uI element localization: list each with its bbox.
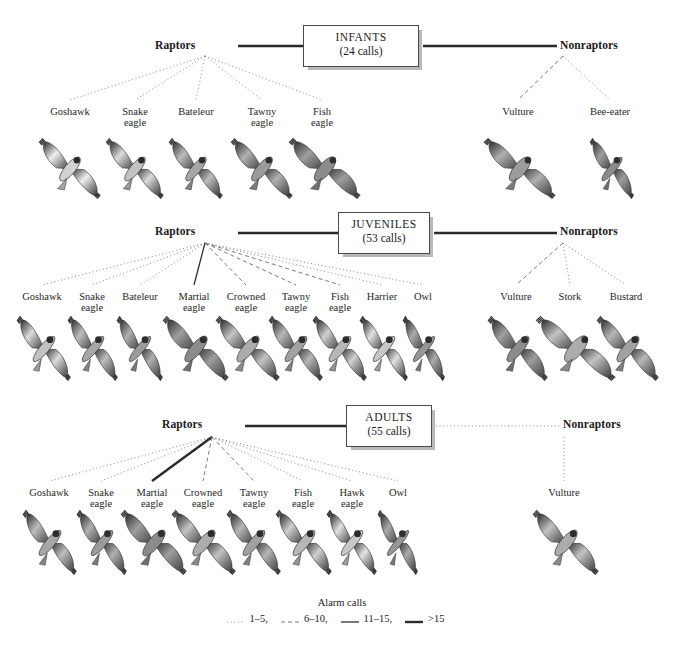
node-label-raptors-adults: Raptors xyxy=(162,418,202,430)
bird-juveniles-martial-eagle xyxy=(163,316,228,380)
stage-box-title: ADULTS xyxy=(347,411,431,425)
branch-adults-snake-eagle xyxy=(101,437,212,481)
bird-adults-vulture xyxy=(533,510,598,574)
legend-label: 1–5, xyxy=(250,613,268,624)
node-label-nonraptors-adults: Nonraptors xyxy=(563,418,621,430)
bird-infants-vulture xyxy=(484,138,555,198)
legend-item-15: 1–5, xyxy=(227,613,268,624)
bird-infants-bee-eater xyxy=(590,138,634,198)
bird-juveniles-bateleur xyxy=(117,316,163,380)
leaf-label-owl: Owl xyxy=(358,487,438,498)
leaf-label-owl: Owl xyxy=(383,291,463,302)
branch-juveniles-crowned-eagle xyxy=(205,243,246,285)
branch-juveniles-goshawk xyxy=(42,243,205,285)
branch-infants-goshawk xyxy=(70,56,205,100)
bird-juveniles-vulture xyxy=(488,316,547,380)
branch-adults-martial-eagle xyxy=(152,437,212,481)
stage-box-infants: INFANTS(24 calls) xyxy=(303,25,419,67)
legend-item-1115: 11–15, xyxy=(341,613,393,624)
node-label-nonraptors-infants: Nonraptors xyxy=(560,39,618,51)
legend-swatch-solid-thick xyxy=(405,616,423,622)
legend-swatch-dashed xyxy=(281,616,299,622)
legend-items: 1–5,6–10,11–15,>15 xyxy=(0,613,684,624)
stage-box-subtitle: (53 calls) xyxy=(339,232,429,246)
leaf-label-bustard: Bustard xyxy=(586,291,666,302)
bird-infants-bateleur xyxy=(169,138,222,198)
stage-box-title: JUVENILES xyxy=(339,218,429,232)
legend-item-15: >15 xyxy=(405,613,444,624)
legend-title: Alarm calls xyxy=(0,597,684,608)
node-label-nonraptors-juveniles: Nonraptors xyxy=(560,225,618,237)
bird-infants-goshawk xyxy=(39,138,100,198)
stage-box-juveniles: JUVENILES(53 calls) xyxy=(338,212,430,254)
bird-juveniles-crowned-eagle xyxy=(216,316,279,380)
leaf-label-fish-eagle: Fisheagle xyxy=(282,106,362,128)
legend-item-610: 6–10, xyxy=(281,613,328,624)
branch-infants-tawny-eagle xyxy=(205,56,262,100)
branch-juveniles-bustard xyxy=(563,243,626,285)
legend-label: >15 xyxy=(428,613,444,624)
bird-juveniles-stork xyxy=(536,316,615,380)
bird-adults-goshawk xyxy=(23,510,76,574)
node-label-raptors-juveniles: Raptors xyxy=(155,225,195,237)
stage-box-adults: ADULTS(55 calls) xyxy=(346,405,432,447)
bird-juveniles-goshawk xyxy=(17,316,70,380)
leaf-label-vulture: Vulture xyxy=(524,487,604,498)
branch-juveniles-stork xyxy=(563,243,570,285)
legend-label: 6–10, xyxy=(304,613,328,624)
bird-infants-snake-eagle xyxy=(106,138,163,198)
branch-adults-fish-eagle xyxy=(212,437,303,481)
branch-infants-bateleur xyxy=(196,56,205,100)
bird-juveniles-harrier xyxy=(360,316,408,380)
branch-adults-crowned-eagle xyxy=(203,437,212,481)
branch-adults-goshawk xyxy=(49,437,212,481)
bird-juveniles-bustard xyxy=(597,316,658,380)
bird-adults-owl xyxy=(378,510,418,574)
stage-box-subtitle: (55 calls) xyxy=(347,425,431,439)
branch-infants-vulture xyxy=(518,56,563,100)
bird-adults-tawny-eagle xyxy=(227,510,280,574)
bird-adults-crowned-eagle xyxy=(172,510,235,574)
bird-infants-tawny-eagle xyxy=(231,138,292,198)
bird-adults-martial-eagle xyxy=(121,510,186,574)
bird-infants-fish-eagle xyxy=(289,138,360,198)
stage-box-title: INFANTS xyxy=(304,31,418,45)
bird-juveniles-tawny-eagle xyxy=(269,316,322,380)
legend-swatch-solid-thin xyxy=(341,616,359,622)
bird-adults-fish-eagle xyxy=(276,510,331,574)
legend-label: 11–15, xyxy=(364,613,393,624)
legend-swatch-dotted xyxy=(227,616,245,622)
branch-adults-tawny-eagle xyxy=(212,437,254,481)
bird-juveniles-snake-eagle xyxy=(68,316,118,380)
bird-juveniles-owl xyxy=(403,316,445,380)
leaf-label-bee-eater: Bee-eater xyxy=(570,106,650,117)
branch-adults-hawk-eagle xyxy=(212,437,352,481)
bird-juveniles-fish-eagle xyxy=(313,316,366,380)
branch-juveniles-tawny-eagle xyxy=(205,243,296,285)
branch-infants-bee-eater xyxy=(563,56,610,100)
stage-box-subtitle: (24 calls) xyxy=(304,45,418,59)
branch-juveniles-bateleur xyxy=(140,243,205,285)
branch-juveniles-fish-eagle xyxy=(205,243,340,285)
bird-adults-snake-eagle xyxy=(77,510,127,574)
branch-infants-snake-eagle xyxy=(135,56,205,100)
leaf-label-vulture: Vulture xyxy=(478,106,558,117)
branch-juveniles-vulture xyxy=(516,243,563,285)
node-label-raptors-infants: Raptors xyxy=(155,39,195,51)
branch-juveniles-snake-eagle xyxy=(92,243,205,285)
bird-adults-hawk-eagle xyxy=(327,510,377,574)
branch-juveniles-martial-eagle xyxy=(194,243,205,285)
figure-canvas: INFANTS(24 calls)RaptorsNonraptorsGoshaw… xyxy=(0,0,684,652)
connector-lines-layer xyxy=(0,0,684,652)
